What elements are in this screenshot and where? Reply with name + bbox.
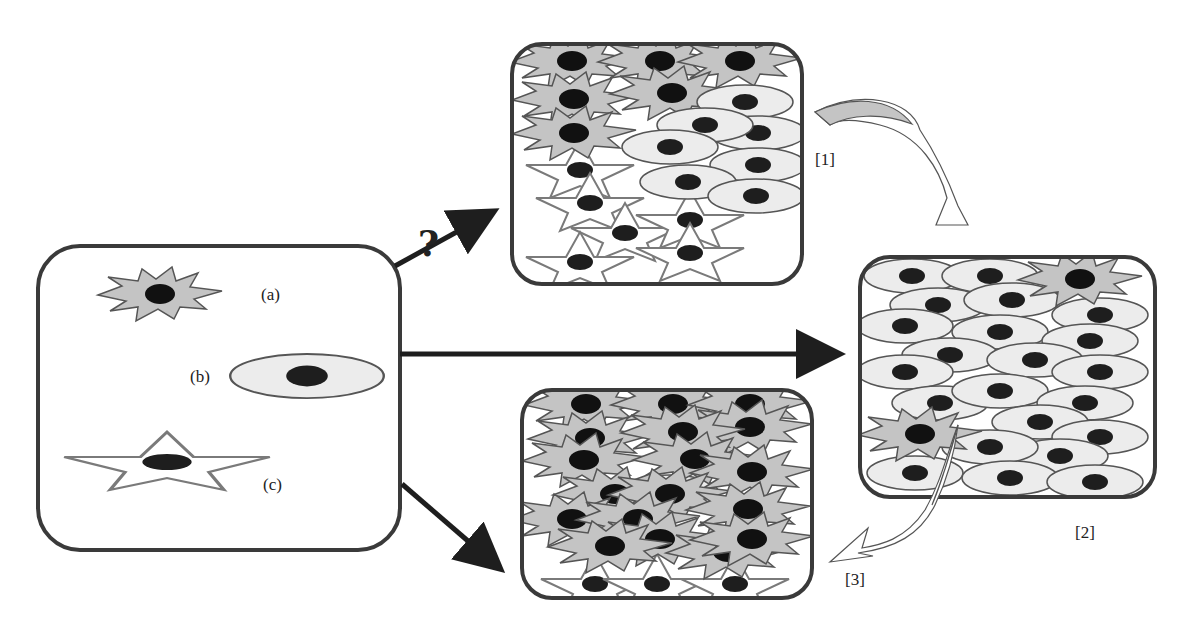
uncertain-path-question-mark: ? (418, 222, 439, 264)
cell-label-c: (c) (263, 475, 282, 495)
outcome-label-1: [1] (815, 150, 835, 170)
outcome-panel-2 (857, 252, 1155, 499)
oval-cell-b-icon (230, 354, 384, 398)
outcome-panel-3 (510, 377, 814, 612)
cell-differentiation-diagram (0, 0, 1191, 629)
source-panel (38, 246, 400, 550)
cell-label-a: (a) (261, 285, 280, 305)
cell-label-b: (b) (190, 367, 210, 387)
outcome-label-2: [2] (1075, 523, 1095, 543)
arrow-to-bottom-outcome (402, 484, 490, 560)
outcome-panel-1 (510, 34, 806, 290)
curved-arrow-1-to-2-icon (815, 100, 968, 225)
outcome-label-3: [3] (845, 570, 865, 590)
